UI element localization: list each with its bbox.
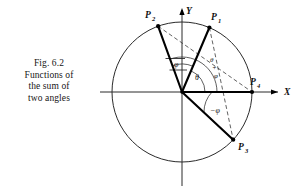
caption-line-3: the sum of <box>6 81 92 93</box>
point-label-p4-sub: 4 <box>256 82 261 89</box>
angle-label-minus-phi: −φ <box>210 106 220 115</box>
radius-op3 <box>182 92 233 140</box>
angle-label-phi-part: φ <box>214 72 218 80</box>
figure-page: Fig. 6.2 Functions of the sum of two ang… <box>0 0 300 196</box>
point-p3-dot <box>231 138 235 142</box>
point-label-p3: P 3 <box>238 142 249 154</box>
diagram-svg: X Y <box>92 0 300 196</box>
point-label-p1-letter: P <box>211 12 217 22</box>
angle-label-phi: φ <box>174 60 179 69</box>
caption-line-1: Fig. 6.2 <box>6 58 92 70</box>
unit-circle-diagram: X Y <box>92 0 300 196</box>
chord-p1-p3 <box>209 28 233 140</box>
caption-line-2: Functions of <box>6 70 92 82</box>
point-p4-dot <box>250 90 254 94</box>
point-label-p3-sub: 3 <box>244 147 249 154</box>
caption-line-4: two angles <box>6 93 92 105</box>
point-label-p2-sub: 2 <box>151 15 156 22</box>
point-label-p2: P 2 <box>145 10 156 22</box>
radius-op1 <box>182 28 209 93</box>
y-axis-label: Y <box>186 6 193 16</box>
angle-label-theta-plus-phi: θ + φ <box>210 56 218 80</box>
point-label-p1-sub: 1 <box>218 17 221 24</box>
point-label-p1: P 1 <box>211 12 221 24</box>
x-axis-label: X <box>283 87 291 97</box>
figure-caption: Fig. 6.2 Functions of the sum of two ang… <box>6 58 92 104</box>
origin-dot <box>180 90 184 94</box>
angle-label-theta-part: θ <box>210 56 214 64</box>
angle-label-plus-sign: + <box>212 64 217 72</box>
point-p2-dot <box>156 24 160 28</box>
x-axis-arrow <box>271 89 278 94</box>
point-label-p2-letter: P <box>145 10 151 20</box>
angle-label-theta: θ <box>195 73 199 82</box>
point-label-p3-letter: P <box>238 142 244 152</box>
point-p1-dot <box>207 25 211 29</box>
point-label-p4-letter: P <box>250 77 256 87</box>
y-axis-arrow <box>179 8 184 15</box>
